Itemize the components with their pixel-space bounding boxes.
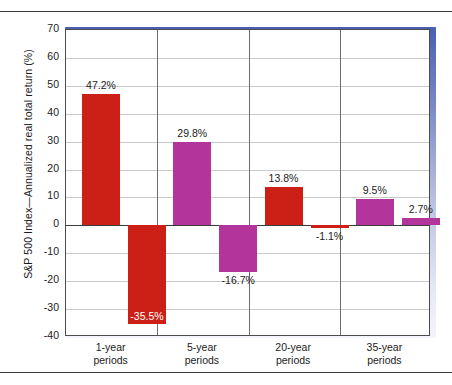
bar-value-label: 29.8%: [156, 127, 228, 139]
bar-value-label: 9.5%: [339, 184, 411, 196]
x-category-label-line2: periods: [339, 354, 430, 367]
y-tick-label: -20: [26, 273, 59, 285]
bar-value-label: -35.5%: [111, 310, 183, 322]
x-category-label-line1: 20-year: [248, 341, 339, 354]
x-category-label: 1-yearperiods: [65, 341, 156, 367]
x-category-label-line2: periods: [65, 354, 156, 367]
plot-area: 47.2%-35.5%29.8%-16.7%13.8%-1.1%9.5%2.7%: [65, 29, 430, 336]
gridline: [66, 58, 429, 59]
x-category-label-line1: 1-year: [65, 341, 156, 354]
bar-worst-35-year-periods[interactable]: [402, 218, 440, 226]
bar-value-label: -16.7%: [202, 274, 274, 286]
bar-value-label: -1.1%: [294, 230, 366, 242]
bar-value-label: 47.2%: [65, 79, 137, 91]
gridline: [66, 114, 429, 115]
bar-value-label: 2.7%: [385, 203, 452, 215]
bar-worst-5-year-periods[interactable]: [219, 225, 257, 272]
gridline: [66, 170, 429, 171]
y-tick-label: 50: [26, 78, 59, 90]
x-category-label: 20-yearperiods: [248, 341, 339, 367]
y-tick-label: 0: [26, 217, 59, 229]
y-tick-label: 10: [26, 189, 59, 201]
x-category-label-line1: 5-year: [156, 341, 247, 354]
bar-best-20-year-periods[interactable]: [265, 187, 303, 226]
bar-value-label: 13.8%: [248, 172, 320, 184]
category-divider: [340, 30, 341, 335]
x-category-label: 35-yearperiods: [339, 341, 430, 367]
y-tick-label: 70: [26, 22, 59, 34]
x-category-label-line1: 35-year: [339, 341, 430, 354]
y-tick-label: 20: [26, 162, 59, 174]
bar-best-5-year-periods[interactable]: [173, 142, 211, 225]
y-tick-label: -10: [26, 245, 59, 257]
bar-best-1-year-periods[interactable]: [82, 94, 120, 226]
chart-figure: S&P 500 Index—Annualized real total retu…: [0, 0, 452, 385]
plot-area-wrapper: 47.2%-35.5%29.8%-16.7%13.8%-1.1%9.5%2.7%: [65, 29, 430, 336]
y-tick-label: 60: [26, 50, 59, 62]
bar-worst-20-year-periods[interactable]: [311, 225, 349, 228]
y-tick-label: -40: [26, 329, 59, 341]
x-category-label: 5-yearperiods: [156, 341, 247, 367]
gridline: [66, 142, 429, 143]
y-tick-label: 30: [26, 134, 59, 146]
y-tick-label: -30: [26, 301, 59, 313]
x-category-label-line2: periods: [248, 354, 339, 367]
x-axis-category-labels: 1-yearperiods5-yearperiods20-yearperiods…: [65, 341, 430, 371]
y-tick-label: 40: [26, 106, 59, 118]
x-category-label-line2: periods: [156, 354, 247, 367]
